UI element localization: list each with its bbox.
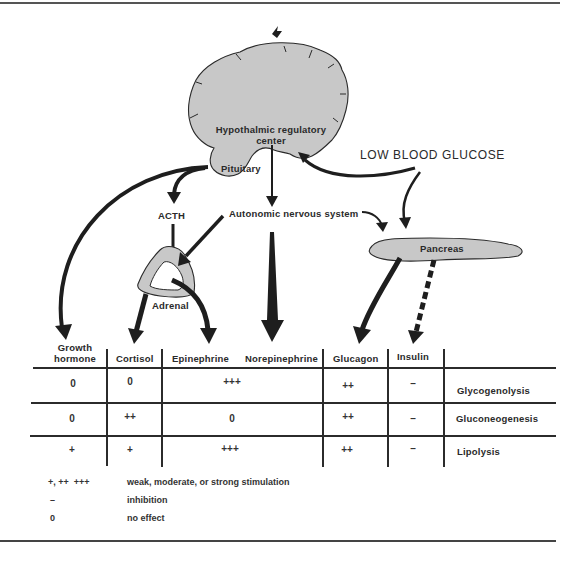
cell-glucagon-gluconeogenesis: ++ (328, 411, 368, 422)
header-growth-hormone-line1: Growth (50, 342, 100, 353)
hypothalamus-label-line1: Hypothalmic regulatory (196, 124, 346, 135)
cell-insulin-glycogenolysis: – (393, 378, 433, 389)
cell-gh-gluconeogenesis: 0 (52, 413, 92, 424)
ans-label: Autonomic nervous system (229, 208, 358, 219)
table-row-rule-2 (30, 435, 556, 437)
top-arrow-icon (272, 26, 282, 38)
cell-catecholamines-glycogenolysis: +++ (212, 376, 252, 387)
table-col-divider-4 (387, 349, 389, 467)
table-col-divider-3 (322, 349, 324, 467)
header-insulin: Insulin (397, 351, 429, 362)
legend-symbol-no-effect: 0 (50, 513, 55, 523)
pituitary-label: Pituitary (221, 163, 261, 174)
hypothalamus-shape (189, 43, 349, 176)
header-glucagon: Glucagon (333, 353, 378, 364)
table-col-divider-2 (161, 349, 163, 467)
cell-catecholamines-gluconeogenesis: 0 (212, 413, 252, 424)
hypothalamus-label-line2: center (196, 135, 346, 146)
header-cortisol: Cortisol (116, 353, 154, 364)
header-epinephrine: Epinephrine (172, 353, 229, 364)
legend-symbol-stimulation: +, ++ +++ (48, 477, 90, 487)
legend-meaning-inhibition: inhibition (127, 495, 168, 505)
legend-meaning-no-effect: no effect (127, 513, 165, 523)
process-glycogenolysis: Glycogenolysis (457, 385, 530, 396)
table-header-rule (33, 367, 556, 369)
adrenal-label: Adrenal (152, 300, 189, 311)
cell-insulin-lipolysis: – (393, 443, 433, 454)
process-gluconeogenesis: Gluconeogenesis (456, 413, 538, 424)
legend-symbol-inhibition: – (50, 495, 55, 505)
header-norepinephrine: Norepinephrine (245, 353, 318, 364)
low-blood-glucose-label: LOW BLOOD GLUCOSE (360, 148, 505, 162)
hypothalamus-label: Hypothalmic regulatory center (196, 124, 346, 146)
acth-label: ACTH (158, 210, 185, 221)
process-lipolysis: Lipolysis (457, 446, 500, 457)
cell-gh-glycogenolysis: 0 (53, 378, 93, 389)
cell-cortisol-gluconeogenesis: ++ (110, 411, 150, 422)
legend-meaning-stimulation: weak, moderate, or strong stimulation (127, 477, 290, 487)
cell-catecholamines-lipolysis: +++ (210, 443, 250, 454)
cell-cortisol-glycogenolysis: 0 (110, 376, 150, 387)
table-col-divider-1 (106, 349, 108, 466)
cell-cortisol-lipolysis: + (110, 444, 150, 455)
header-growth-hormone-line2: hormone (50, 353, 100, 364)
cell-insulin-gluconeogenesis: – (393, 413, 433, 424)
pancreas-label: Pancreas (420, 243, 464, 254)
cell-glucagon-lipolysis: ++ (327, 444, 367, 455)
table-row-rule-1 (31, 402, 556, 404)
table-col-divider-5 (443, 349, 445, 467)
header-growth-hormone: Growth hormone (50, 342, 100, 364)
cell-gh-lipolysis: + (52, 444, 92, 455)
cell-glucagon-glycogenolysis: ++ (328, 380, 368, 391)
